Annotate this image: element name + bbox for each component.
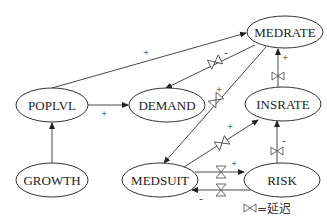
node-label: MEDRATE xyxy=(254,25,315,40)
node-poplvl: POPLVL xyxy=(16,88,88,122)
sign-medrate-demand: - xyxy=(224,46,228,58)
node-demand: DEMAND xyxy=(129,88,205,122)
sign-risk-medsuit: - xyxy=(199,192,203,204)
sign-medsuit-insrate: + xyxy=(227,120,233,132)
sign-medsuit-risk: + xyxy=(231,157,237,169)
node-medrate: MEDRATE xyxy=(247,16,323,48)
node-insrate: INSRATE xyxy=(245,87,321,121)
legend-text: =延迟 xyxy=(257,202,291,216)
sign-insrate-medrate: + xyxy=(282,51,288,63)
causal-loop-diagram: + + - + + + + - - MEDRATE POPLVL xyxy=(0,0,327,222)
legend: =延迟 xyxy=(244,202,291,216)
node-label: MEDSUIT xyxy=(131,173,189,188)
node-label: POPLVL xyxy=(28,98,76,113)
node-label: INSRATE xyxy=(256,97,310,112)
sign-risk-insrate: - xyxy=(282,134,286,146)
node-label: RISK xyxy=(267,173,297,188)
legend-delay-icon xyxy=(244,204,256,212)
delay-icon xyxy=(214,136,229,151)
node-label: DEMAND xyxy=(138,98,195,113)
sign-poplvl-medrate: + xyxy=(143,46,149,58)
node-label: GROWTH xyxy=(23,173,80,188)
node-growth: GROWTH xyxy=(16,163,88,197)
node-risk: RISK xyxy=(244,163,320,197)
node-medsuit: MEDSUIT xyxy=(122,163,198,197)
sign-poplvl-demand: + xyxy=(101,107,107,119)
